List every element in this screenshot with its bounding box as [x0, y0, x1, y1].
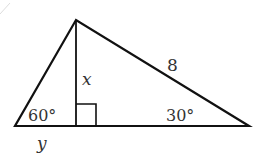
segment-y-label: y	[36, 133, 47, 153]
hypotenuse-label: 8	[167, 55, 178, 75]
altitude-label: x	[82, 69, 92, 89]
angle-30-label: 30°	[166, 106, 194, 125]
right-angle-marker	[76, 104, 96, 126]
angle-60-label: 60°	[28, 106, 56, 125]
corner-artifact	[0, 3, 10, 14]
triangle-diagram: 8 x 60° 30° y	[0, 0, 268, 167]
